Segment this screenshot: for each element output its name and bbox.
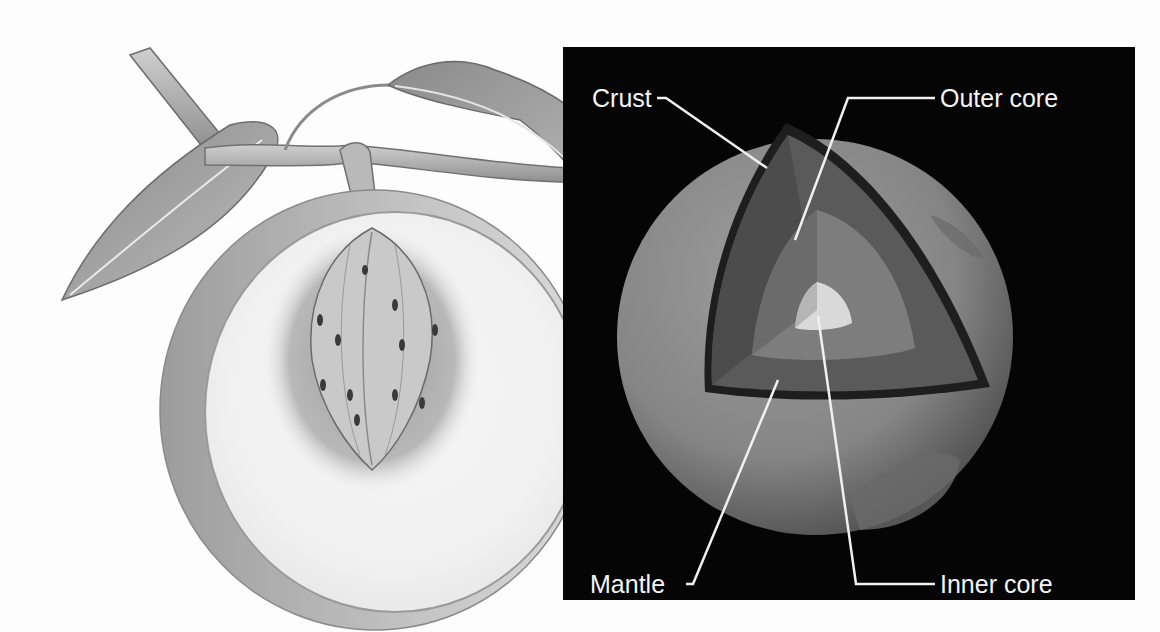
- figure-canvas: Crust Outer core Mantle Inner core: [0, 0, 1160, 632]
- crust-label: Crust: [592, 84, 652, 112]
- inner-core-label: Inner core: [940, 570, 1053, 598]
- outer-core-label: Outer core: [940, 84, 1058, 112]
- mantle-label: Mantle: [590, 570, 665, 598]
